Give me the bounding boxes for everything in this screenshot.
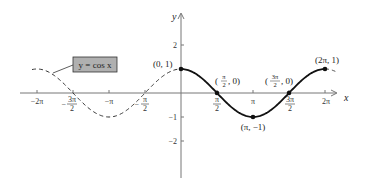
label-point-3pi-half-0: ( 3π 2 , 0) [265, 73, 293, 88]
xtick-negpi-2: − π 2 [134, 95, 149, 113]
ytick-2: 2 [173, 41, 177, 50]
svg-text:(: ( [265, 76, 268, 86]
xtick-pi-2: π 2 [213, 95, 221, 113]
svg-text:π: π [215, 95, 219, 104]
svg-text:2: 2 [215, 104, 219, 113]
svg-text:2: 2 [143, 104, 147, 113]
svg-text:−: − [61, 100, 66, 109]
svg-text:π: π [222, 73, 226, 80]
y-axis-label: y [171, 11, 177, 22]
legend-leader-line [53, 65, 73, 73]
svg-text:2: 2 [273, 81, 276, 88]
xtick-2pi: 2π [322, 97, 330, 106]
svg-text:2: 2 [288, 104, 292, 113]
label-point-pi-neg1: (π, −1) [241, 122, 266, 132]
label-point-pi-half-0: ( π 2 , 0) [215, 73, 240, 88]
xtick-neg2pi: −2π [31, 97, 44, 106]
svg-text:π: π [143, 95, 147, 104]
svg-text:2: 2 [70, 104, 74, 113]
label-point-2pi-1: (2π, 1) [315, 55, 339, 65]
xtick-pi: π [251, 97, 255, 106]
label-point-0-1: (0, 1) [153, 59, 173, 69]
svg-text:−: − [134, 100, 139, 109]
svg-text:3π: 3π [286, 95, 294, 104]
svg-text:3π: 3π [272, 73, 279, 80]
ytick-neg1: −1 [168, 113, 177, 122]
svg-text:, 0): , 0) [281, 76, 293, 86]
point-pi-neg1 [251, 115, 256, 120]
svg-text:, 0): , 0) [228, 76, 240, 86]
xtick-negpi: −π [105, 97, 114, 106]
svg-text:(: ( [215, 76, 218, 86]
legend-label: y = cos x [79, 60, 112, 70]
y-axis [178, 13, 184, 178]
svg-text:2: 2 [222, 81, 225, 88]
cosine-graph: y = cos x y x 2 −1 −2 −2π − 3π 2 −π − π … [0, 0, 368, 182]
point-0-1 [179, 67, 184, 72]
xtick-3pi-2: 3π 2 [285, 95, 295, 113]
xtick-neg3pi-2: − 3π 2 [61, 95, 77, 113]
svg-text:3π: 3π [68, 95, 76, 104]
ytick-neg2: −2 [168, 137, 177, 146]
x-axis-label: x [343, 92, 349, 103]
point-2pi-1 [323, 67, 328, 72]
